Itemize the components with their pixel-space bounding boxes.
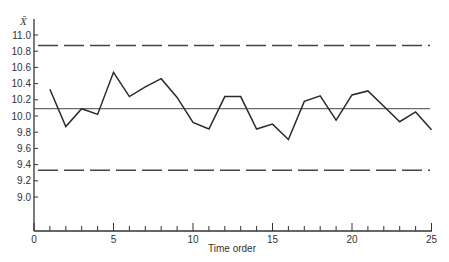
y-tick-label: 10.0 bbox=[12, 111, 32, 122]
x-tick-label: 15 bbox=[267, 234, 279, 245]
sample-means-line bbox=[50, 72, 432, 139]
y-tick-label: 10.2 bbox=[12, 94, 32, 105]
y-axis-label: X̄ bbox=[19, 15, 28, 27]
y-tick-label: 9.0 bbox=[17, 192, 31, 203]
y-tick-label: 9.6 bbox=[17, 143, 31, 154]
x-tick-label: 20 bbox=[346, 234, 358, 245]
y-tick-label: 9.8 bbox=[17, 127, 31, 138]
data-series bbox=[50, 72, 432, 139]
x-tick-label: 5 bbox=[111, 234, 117, 245]
y-tick-label: 9.4 bbox=[17, 159, 31, 170]
y-tick-label: 9.2 bbox=[17, 175, 31, 186]
y-tick-label: 10.6 bbox=[12, 62, 32, 73]
y-tick-label: 11.0 bbox=[12, 30, 31, 41]
x-tick-label: 0 bbox=[31, 234, 37, 245]
x-tick-label: 25 bbox=[426, 234, 438, 245]
x-axis-label: Time order bbox=[208, 243, 257, 254]
reference-lines bbox=[34, 46, 430, 171]
axes: 9.09.29.49.69.810.010.210.410.610.811.00… bbox=[12, 19, 438, 245]
y-tick-label: 10.4 bbox=[12, 78, 32, 89]
x-tick-label: 10 bbox=[187, 234, 199, 245]
control-chart: 9.09.29.49.69.810.010.210.410.610.811.00… bbox=[0, 0, 449, 262]
y-tick-label: 10.8 bbox=[12, 46, 32, 57]
